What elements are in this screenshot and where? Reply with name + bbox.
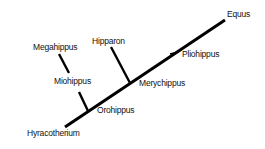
taxon-merychippus: Merychippus: [139, 78, 185, 88]
main-trunk: [65, 20, 225, 127]
taxon-orohippus: Orohippus: [97, 105, 134, 115]
megahippus-branch: [59, 54, 69, 73]
taxon-equus: Equus: [227, 9, 250, 19]
taxon-pliohippus: Pliohippus: [182, 49, 219, 59]
tree-lines: [0, 0, 265, 149]
hipparon-branch: [111, 47, 130, 83]
taxon-hipparon: Hipparon: [92, 36, 125, 46]
taxon-hyracotherium: Hyracotherium: [27, 128, 80, 138]
taxon-megahippus: Megahippus: [33, 42, 77, 52]
miohippus-branch: [79, 92, 88, 111]
taxon-miohippus: Miohippus: [54, 76, 91, 86]
